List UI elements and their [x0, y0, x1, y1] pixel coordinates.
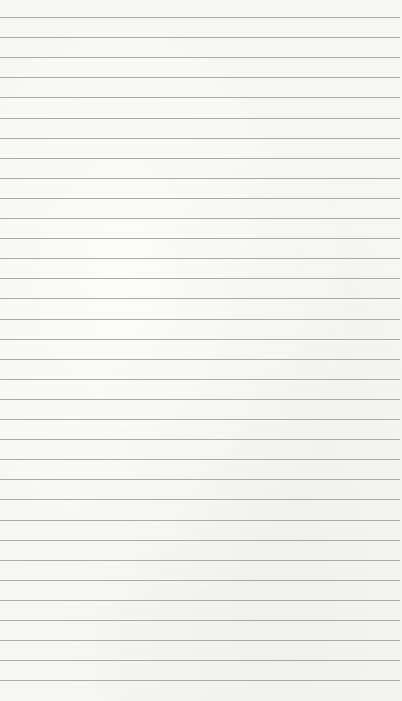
ruled-line — [0, 278, 400, 279]
ruled-line — [0, 17, 400, 18]
ruled-line — [0, 218, 400, 219]
ruled-line — [0, 37, 400, 38]
ruled-line — [0, 680, 400, 681]
ruled-line — [0, 57, 400, 58]
ruled-line — [0, 138, 400, 139]
ruled-line — [0, 238, 400, 239]
ruled-line — [0, 600, 400, 601]
ruled-line — [0, 158, 400, 159]
ruled-line — [0, 560, 400, 561]
ruled-line — [0, 620, 400, 621]
ruled-line — [0, 298, 400, 299]
ruled-line — [0, 660, 400, 661]
ruled-line — [0, 178, 400, 179]
ruled-line — [0, 379, 400, 380]
ruled-line — [0, 319, 400, 320]
ruled-line — [0, 339, 400, 340]
ruled-line — [0, 359, 400, 360]
ruled-line — [0, 399, 400, 400]
ruled-line — [0, 77, 400, 78]
ruled-line — [0, 258, 400, 259]
ruled-line — [0, 520, 400, 521]
ruled-line — [0, 499, 400, 500]
ruled-line — [0, 439, 400, 440]
lined-paper-sheet — [0, 0, 402, 701]
ruled-line — [0, 198, 400, 199]
ruled-line — [0, 479, 400, 480]
ruled-line — [0, 419, 400, 420]
ruled-line — [0, 580, 400, 581]
ruled-line — [0, 97, 400, 98]
ruled-line — [0, 540, 400, 541]
ruled-line — [0, 118, 400, 119]
ruled-line — [0, 640, 400, 641]
ruled-line — [0, 459, 400, 460]
